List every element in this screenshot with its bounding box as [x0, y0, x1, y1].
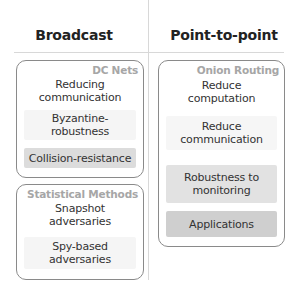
item-reduce-computation: Reduce computation [166, 78, 277, 106]
item-reduce-communication: Reduce communication [166, 116, 277, 150]
group-title: DC Nets [92, 64, 138, 76]
item-byzantine-robustness: Byzantine-robustness [24, 110, 136, 140]
group-dc-nets: DC Nets Reducing communication Byzantine… [16, 60, 144, 178]
column-divider [148, 0, 149, 280]
column-header-point-to-point: Point-to-point [150, 27, 298, 43]
column-header-broadcast: Broadcast [0, 27, 148, 43]
item-spy-based-adversaries: Spy-based adversaries [24, 237, 136, 269]
group-onion-routing: Onion Routing Reduce computation Reduce … [158, 60, 285, 247]
group-title: Onion Routing [197, 64, 279, 76]
header-divider [14, 52, 284, 53]
item-collision-resistance: Collision-resistance [24, 148, 136, 168]
item-snapshot-adversaries: Snapshot adversaries [24, 201, 136, 229]
group-statistical-methods: Statistical Methods Snapshot adversaries… [16, 184, 144, 280]
item-applications: Applications [166, 211, 277, 237]
group-title: Statistical Methods [27, 188, 138, 200]
item-reducing-communication: Reducing communication [24, 77, 136, 105]
item-robustness-to-monitoring: Robustness to monitoring [166, 165, 277, 203]
